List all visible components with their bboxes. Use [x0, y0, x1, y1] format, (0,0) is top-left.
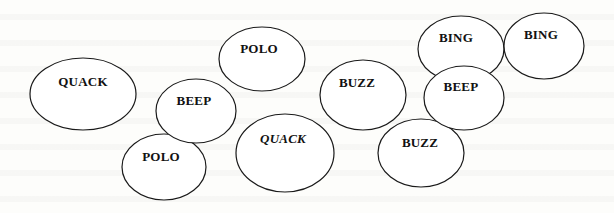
bubble-label-buzz-1: BUZZ [339, 75, 375, 91]
bubble-polo-2 [122, 134, 206, 200]
bubble-bing-2 [504, 13, 584, 79]
bubble-label-quack-2: QUACK [260, 131, 306, 147]
bubble-label-bing-1: BING [439, 30, 473, 46]
bubble-label-polo-1: POLO [240, 41, 278, 57]
bubble-label-beep-1: BEEP [177, 93, 212, 109]
bubble-label-beep-2: BEEP [444, 79, 479, 95]
bubble-quack-2 [236, 114, 334, 192]
bubble-buzz-1 [320, 60, 406, 130]
bubble-label-polo-2: POLO [142, 149, 180, 165]
bubble-label-quack-1: QUACK [58, 74, 107, 90]
bubble-beep-2 [424, 66, 504, 130]
bubble-beep-1 [156, 79, 236, 143]
bubble-label-bing-2: BING [524, 27, 558, 43]
bubble-diagram [0, 0, 614, 213]
bubble-quack-1 [30, 58, 136, 130]
bubble-buzz-2 [378, 119, 464, 187]
bubble-polo-1 [219, 27, 305, 91]
bubble-label-buzz-2: BUZZ [402, 135, 438, 151]
